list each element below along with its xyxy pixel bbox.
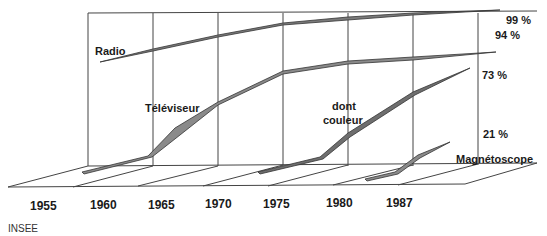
label-color-line1: dont <box>332 100 356 112</box>
series-color-tv <box>258 68 470 174</box>
year-label-1955: 1955 <box>30 199 57 213</box>
pct-vcr: 21 % <box>483 128 508 140</box>
pct-color-tv: 73 % <box>482 69 507 81</box>
pct-radio: 99 % <box>506 14 531 26</box>
year-label-1980: 1980 <box>326 196 353 210</box>
back-wall <box>88 11 537 166</box>
label-television: Téléviseur <box>145 102 199 114</box>
year-label-1987: 1987 <box>386 196 413 210</box>
year-label-1965: 1965 <box>148 198 175 212</box>
label-radio: Radio <box>95 45 126 57</box>
year-label-1960: 1960 <box>90 198 117 212</box>
year-label-1970: 1970 <box>205 197 232 211</box>
series-radio <box>100 10 500 62</box>
source-label: INSEE <box>8 223 38 234</box>
floor-grid <box>8 163 537 187</box>
pct-television: 94 % <box>495 29 520 41</box>
label-vcr: Magnétoscope <box>456 153 533 165</box>
year-label-1975: 1975 <box>263 197 290 211</box>
label-color-line2: couleur <box>323 114 363 126</box>
